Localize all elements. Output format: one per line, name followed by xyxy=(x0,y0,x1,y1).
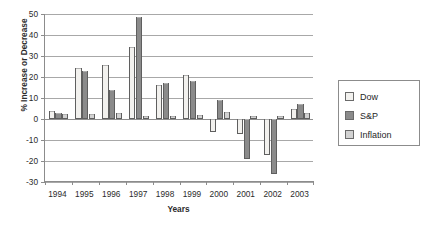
y-tick-mark xyxy=(41,98,45,99)
gridline xyxy=(45,14,313,15)
bar-top-highlight xyxy=(110,89,114,91)
y-tick-mark xyxy=(41,35,45,36)
legend-label-sp: S&P xyxy=(360,111,378,121)
bar-top-highlight xyxy=(191,80,195,82)
legend-item-inflation: Inflation xyxy=(345,125,419,144)
y-tick-label: 40 xyxy=(6,30,38,40)
bar-top-highlight xyxy=(198,114,202,116)
bar-sp-2001 xyxy=(244,119,250,159)
x-tick-mark xyxy=(45,181,46,185)
bar-dow-2002 xyxy=(264,119,270,155)
bar-top-highlight xyxy=(292,108,296,110)
bar-top-highlight xyxy=(265,118,269,120)
bar-top-highlight xyxy=(305,112,309,114)
bar-dow-2000 xyxy=(210,119,216,132)
gridline xyxy=(45,35,313,36)
bar-inflation-1996 xyxy=(116,113,122,119)
bar-top-highlight xyxy=(83,70,87,72)
bar-top-highlight xyxy=(251,115,255,117)
bar-dow-1997 xyxy=(129,47,135,119)
bar-top-highlight xyxy=(218,99,222,101)
legend-item-sp: S&P xyxy=(345,106,419,125)
y-tick-label: -30 xyxy=(6,177,38,187)
bar-top-highlight xyxy=(63,113,67,115)
bar-inflation-1995 xyxy=(89,114,95,119)
bar-chart: % Increase or Decrease 50403020100-10-20… xyxy=(0,0,434,232)
bar-sp-1994 xyxy=(55,113,61,119)
y-tick-mark xyxy=(41,161,45,162)
bar-dow-1996 xyxy=(102,65,108,119)
y-tick-label: 0 xyxy=(6,114,38,124)
legend-label-inflation: Inflation xyxy=(360,130,392,140)
bar-inflation-2000 xyxy=(224,112,230,119)
bar-dow-1998 xyxy=(156,85,162,119)
bar-top-highlight xyxy=(211,118,215,120)
y-tick-mark xyxy=(41,140,45,141)
plot-inner xyxy=(45,14,313,181)
bar-top-highlight xyxy=(117,112,121,114)
bar-top-highlight xyxy=(144,115,148,117)
bar-top-highlight xyxy=(164,82,168,84)
bar-inflation-2002 xyxy=(277,116,283,119)
legend-swatch-sp xyxy=(345,111,354,120)
bar-dow-2003 xyxy=(291,109,297,120)
legend-swatch-dow xyxy=(345,92,354,101)
bar-sp-2002 xyxy=(271,119,277,174)
y-tick-label: -20 xyxy=(6,156,38,166)
y-tick-label: 30 xyxy=(6,51,38,61)
y-tick-mark xyxy=(41,77,45,78)
bar-sp-1996 xyxy=(109,90,115,119)
y-tick-mark xyxy=(41,14,45,15)
x-tick-mark xyxy=(153,181,154,185)
bar-top-highlight xyxy=(137,16,141,18)
bar-top-highlight xyxy=(103,64,107,66)
bar-top-highlight xyxy=(298,103,302,105)
bar-dow-1995 xyxy=(75,68,81,119)
bar-top-highlight xyxy=(278,115,282,117)
bar-top-highlight xyxy=(171,115,175,117)
x-tick-mark xyxy=(126,181,127,185)
y-tick-label: -10 xyxy=(6,135,38,145)
bar-top-highlight xyxy=(272,118,276,120)
legend-item-dow: Dow xyxy=(345,87,419,106)
x-axis-title: Years xyxy=(44,204,313,214)
y-tick-label: 20 xyxy=(6,72,38,82)
bar-dow-2001 xyxy=(237,119,243,134)
bar-dow-1999 xyxy=(183,75,189,119)
bar-inflation-1999 xyxy=(197,115,203,119)
bar-top-highlight xyxy=(90,113,94,115)
bar-top-highlight xyxy=(238,118,242,120)
bar-inflation-2003 xyxy=(304,113,310,119)
bar-inflation-2001 xyxy=(250,116,256,119)
bar-inflation-1997 xyxy=(143,116,149,119)
bar-top-highlight xyxy=(50,110,54,112)
bar-sp-1997 xyxy=(136,17,142,119)
x-tick-mark xyxy=(287,181,288,185)
x-tick-mark xyxy=(206,181,207,185)
bar-sp-1998 xyxy=(163,83,169,119)
x-tick-label: 2003 xyxy=(280,189,320,199)
bar-inflation-1998 xyxy=(170,116,176,119)
x-tick-mark xyxy=(180,181,181,185)
bar-top-highlight xyxy=(225,111,229,113)
bar-dow-1994 xyxy=(49,111,55,119)
chart-legend: Dow S&P Inflation xyxy=(338,80,420,146)
y-tick-label: 50 xyxy=(6,9,38,19)
bar-inflation-1994 xyxy=(62,114,68,119)
x-tick-mark xyxy=(99,181,100,185)
x-tick-mark xyxy=(233,181,234,185)
legend-label-dow: Dow xyxy=(360,92,378,102)
bar-top-highlight xyxy=(130,46,134,48)
bar-sp-2000 xyxy=(217,100,223,119)
y-tick-mark xyxy=(41,119,45,120)
bar-top-highlight xyxy=(76,67,80,69)
bar-top-highlight xyxy=(157,84,161,86)
x-tick-mark xyxy=(260,181,261,185)
bar-sp-1995 xyxy=(82,71,88,119)
x-tick-mark xyxy=(313,181,314,185)
bar-sp-2003 xyxy=(297,104,303,119)
bar-sp-1999 xyxy=(190,81,196,119)
x-tick-mark xyxy=(72,181,73,185)
bar-top-highlight xyxy=(245,118,249,120)
bar-top-highlight xyxy=(56,112,60,114)
